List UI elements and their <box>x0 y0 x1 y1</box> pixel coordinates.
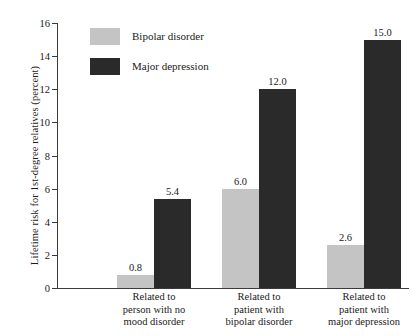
y-tick-mark <box>52 56 57 57</box>
bar: 15.0 <box>364 40 401 288</box>
legend-label-major-depression: Major depression <box>132 60 209 72</box>
y-tick-label: 8 <box>45 150 50 161</box>
y-tick-label: 16 <box>40 18 51 29</box>
bar: 0.8 <box>117 275 154 288</box>
legend-item-bipolar-disorder: Bipolar disorder <box>90 27 209 45</box>
y-tick-label: 10 <box>40 117 51 128</box>
x-axis-category-labels: Related toperson with nomood disorderRel… <box>57 291 409 336</box>
y-tick-label: 12 <box>40 84 51 95</box>
legend-swatch-major-depression <box>90 58 120 75</box>
legend-item-major-depression: Major depression <box>90 57 209 75</box>
y-tick-mark <box>52 156 57 157</box>
plot-area: 0246810121416 0.86.02.65.412.015.0 Bipol… <box>57 23 409 288</box>
x-category-label-line: patient with <box>299 304 412 317</box>
y-tick-mark <box>52 288 57 289</box>
y-tick-mark <box>52 122 57 123</box>
y-tick-mark <box>52 255 57 256</box>
y-axis-title: Lifetime risk for 1st-degree relatives (… <box>29 36 40 296</box>
y-axis-line <box>57 23 58 288</box>
y-tick-label: 6 <box>45 183 50 194</box>
bar: 5.4 <box>154 199 191 288</box>
x-category-label: Related topatient withmajor depression <box>299 291 412 329</box>
bar-chart-figure: Lifetime risk for 1st-degree relatives (… <box>0 0 412 336</box>
legend-swatch-bipolar-disorder <box>90 28 120 45</box>
chart-legend: Bipolar disorder Major depression <box>90 27 209 87</box>
legend-label-bipolar-disorder: Bipolar disorder <box>132 30 204 42</box>
y-tick-mark <box>52 89 57 90</box>
y-tick-mark <box>52 222 57 223</box>
x-axis-line <box>57 288 409 289</box>
y-tick-label: 2 <box>45 249 50 260</box>
y-tick-mark <box>52 23 57 24</box>
bar-value-label: 12.0 <box>268 76 286 87</box>
bar-value-label: 2.6 <box>339 232 352 243</box>
bar: 6.0 <box>222 189 259 288</box>
bar-value-label: 6.0 <box>234 176 247 187</box>
bar-value-label: 15.0 <box>373 27 391 38</box>
bar-value-label: 0.8 <box>129 262 142 273</box>
y-tick-label: 4 <box>45 216 50 227</box>
y-tick-mark <box>52 189 57 190</box>
y-tick-label: 14 <box>40 51 51 62</box>
y-tick-label: 0 <box>45 283 50 294</box>
bar-value-label: 5.4 <box>166 186 179 197</box>
x-category-label-line: major depression <box>299 316 412 329</box>
x-category-label-line: Related to <box>299 291 412 304</box>
bar: 2.6 <box>327 245 364 288</box>
bar: 12.0 <box>259 89 296 288</box>
